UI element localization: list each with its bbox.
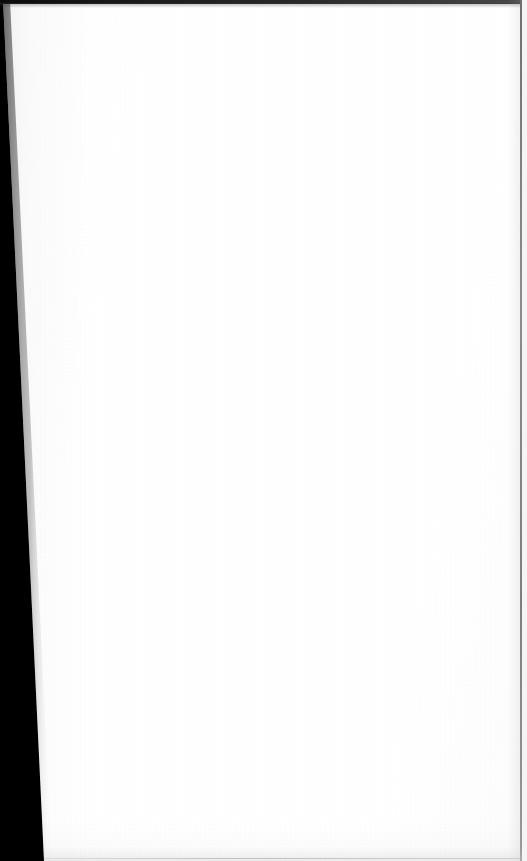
top-scan-edge-shadow [0,3,527,8]
right-edge-shadow [508,0,520,861]
page-content-area [70,70,490,800]
scanned-page [0,0,527,861]
right-outer-margin [522,0,527,861]
bottom-edge-rule [44,858,522,859]
